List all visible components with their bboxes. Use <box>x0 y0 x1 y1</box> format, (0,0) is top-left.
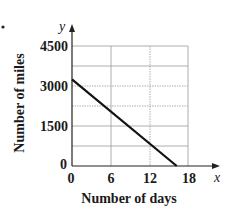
x-axis-variable: x <box>213 170 221 185</box>
line-chart: 4500 3000 1500 0 0 6 12 18 y x Number of… <box>0 0 242 213</box>
x-axis-title: Number of days <box>81 191 177 206</box>
y-axis-arrow-icon <box>69 24 75 32</box>
y-tick-3000: 3000 <box>40 79 68 94</box>
y-tick-labels: 4500 3000 1500 0 <box>40 39 68 172</box>
x-tick-labels: 0 6 12 18 <box>68 171 197 186</box>
x-tick-18: 18 <box>182 171 196 186</box>
y-tick-0: 0 <box>60 157 67 172</box>
data-line <box>72 79 177 166</box>
x-tick-6: 6 <box>108 171 115 186</box>
y-tick-1500: 1500 <box>40 119 68 134</box>
x-axis-arrow-icon <box>212 163 220 169</box>
x-tick-0: 0 <box>68 171 75 186</box>
bullet-marker <box>1 25 4 28</box>
y-tick-4500: 4500 <box>40 39 68 54</box>
y-axis-title: Number of miles <box>12 53 27 153</box>
x-tick-12: 12 <box>143 171 157 186</box>
grid <box>72 46 188 166</box>
y-axis-variable: y <box>57 19 66 34</box>
